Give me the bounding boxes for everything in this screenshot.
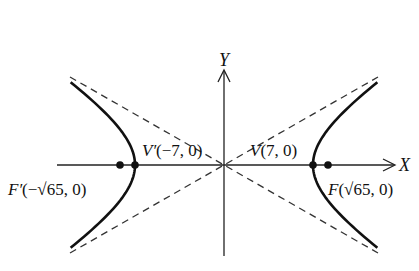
vertex-left-dot (131, 161, 139, 169)
focus-right-label: F(√65, 0) (327, 180, 393, 199)
focus-left-label: F′(−√65, 0) (7, 180, 86, 199)
focus-right-dot (324, 161, 332, 169)
vertex-left-label: V′(−7, 0) (142, 141, 203, 160)
y-axis-label: Y (219, 50, 231, 70)
vertex-right-dot (309, 161, 317, 169)
focus-left-dot (116, 161, 124, 169)
hyperbola-diagram: Y X V′(−7, 0) V(7, 0) F′(−√65, 0) F(√65,… (0, 0, 419, 271)
x-axis-label: X (398, 155, 411, 175)
vertex-right-label: V(7, 0) (250, 141, 297, 160)
